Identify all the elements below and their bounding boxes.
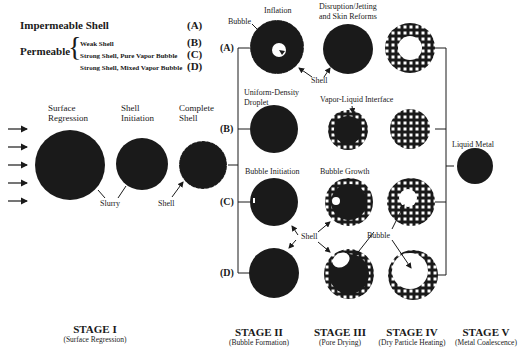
heat-flux-arrows	[8, 129, 27, 201]
label-complete: Complete	[179, 103, 214, 113]
label-c-growth: Bubble Growth	[320, 167, 370, 177]
legend-item-c-label: Strong Shell, Pure Vapor Bubble	[80, 52, 177, 60]
stage4-bracket	[435, 48, 454, 275]
legend-item-c-code: (C)	[187, 48, 202, 60]
label-liquid-metal: Liquid Metal	[452, 140, 494, 150]
stage-3-title: STAGE III	[305, 326, 375, 338]
label-a-inflation: Inflation	[264, 6, 292, 16]
label-a-disruption-1: Disruption/Jetting	[319, 2, 377, 12]
stage2-bracket	[238, 48, 250, 273]
label-a-bubble: Bubble	[228, 17, 251, 27]
row-code-b: (B)	[220, 123, 233, 134]
annotation-shell: Shell	[158, 199, 174, 209]
stage-1-caption: STAGE I (Surface Regression)	[40, 323, 150, 344]
droplet-complete-shell	[179, 141, 227, 189]
label-complete-shell: Shell	[179, 113, 198, 123]
stage-3-subtitle: (Pore Drying)	[305, 338, 375, 347]
stage-5-title: STAGE V	[450, 326, 522, 338]
stage-2-title: STAGE II	[224, 326, 294, 338]
label-initiation: Initiation	[121, 113, 154, 123]
label-b-interface: Vapor-Liquid Interface	[320, 95, 393, 105]
row-code-d: (D)	[220, 267, 234, 278]
droplet-a-disruption	[323, 24, 373, 74]
stage-2-subtitle: (Bubble Formation)	[224, 338, 294, 347]
legend-item-d-code: (D)	[187, 60, 202, 72]
particle-b-porous	[390, 109, 430, 149]
label-b-droplet: Droplet	[244, 98, 268, 108]
row-code-c: (C)	[220, 196, 234, 207]
droplet-b-uniform	[250, 105, 298, 153]
stage-4-subtitle: (Dry Particle Heating)	[372, 338, 452, 347]
label-d-shell: Shell	[301, 232, 317, 242]
legend-item-b-label: Weak Shell	[80, 40, 114, 48]
label-b-uniform: Uniform-Density	[244, 88, 299, 98]
label-a-shell: Shell	[311, 76, 327, 86]
droplet-c-initiation	[250, 178, 298, 226]
label-a-disruption-2: and Skin Reforms	[319, 12, 377, 22]
stage-4-title: STAGE IV	[372, 326, 452, 338]
legend-permeable-label: Permeable	[20, 45, 70, 57]
droplet-liquid-metal	[457, 148, 493, 184]
label-surface: Surface	[48, 103, 75, 113]
legend-impermeable-code: (A)	[187, 19, 202, 31]
stage-1-subtitle: (Surface Regression)	[40, 335, 150, 344]
stage-1-title: STAGE I	[40, 323, 150, 335]
row-code-a: (A)	[220, 42, 234, 53]
label-c-initiation: Bubble Initiation	[245, 167, 299, 177]
droplet-shell-initiation	[116, 138, 168, 190]
stage-5-caption: STAGE V (Metal Coalescence)	[450, 326, 522, 347]
stage-2-caption: STAGE II (Bubble Formation)	[224, 326, 294, 347]
label-shell: Shell	[121, 103, 140, 113]
stage-5-subtitle: (Metal Coalescence)	[450, 338, 522, 347]
annotation-slurry: Slurry	[100, 199, 120, 209]
legend-impermeable-label: Impermeable Shell	[20, 19, 109, 31]
label-d-bubble: Bubble	[367, 231, 390, 241]
droplet-surface-regression	[35, 130, 105, 200]
stage-4-caption: STAGE IV (Dry Particle Heating)	[372, 326, 452, 347]
legend-item-d-label: Strong Shell, Mixed Vapor Bubble	[80, 64, 182, 72]
droplet-d-initiation	[249, 248, 299, 298]
label-regression: Regression	[48, 113, 88, 123]
stage-3-caption: STAGE III (Pore Drying)	[305, 326, 375, 347]
legend-item-b-code: (B)	[187, 36, 202, 48]
